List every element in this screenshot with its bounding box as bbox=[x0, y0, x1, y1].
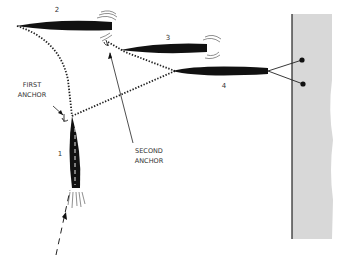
first-anchor-label-1: FIRST bbox=[23, 81, 41, 89]
bollard-icon bbox=[300, 81, 305, 86]
second-anchor-label-2: ANCHOR bbox=[135, 157, 164, 165]
first-anchor-label-2: ANCHOR bbox=[18, 91, 47, 99]
boat-2-label: 2 bbox=[55, 6, 59, 14]
bollard-icon bbox=[299, 57, 304, 62]
boat-4-label: 4 bbox=[222, 82, 227, 90]
second-anchor-label-1: SECOND bbox=[135, 147, 163, 155]
first-anchor-icon bbox=[62, 114, 68, 122]
boat-2 bbox=[16, 11, 117, 41]
rode-boat2-to-first-anchor bbox=[17, 26, 72, 116]
anchoring-diagram: 2 3 4 1 FIRST ANCHOR SECOND ANCHOR bbox=[0, 0, 343, 263]
boat-3-label: 3 bbox=[166, 34, 170, 42]
boat-4 bbox=[172, 67, 268, 76]
rode-first-anchor-to-boat4 bbox=[72, 71, 175, 116]
boat-1-label: 1 bbox=[58, 150, 62, 158]
arrow-icon bbox=[62, 212, 67, 220]
boat-1 bbox=[68, 116, 85, 208]
quay-wall bbox=[292, 14, 333, 239]
anchor-rodes bbox=[17, 26, 175, 116]
approach-path bbox=[56, 190, 70, 255]
